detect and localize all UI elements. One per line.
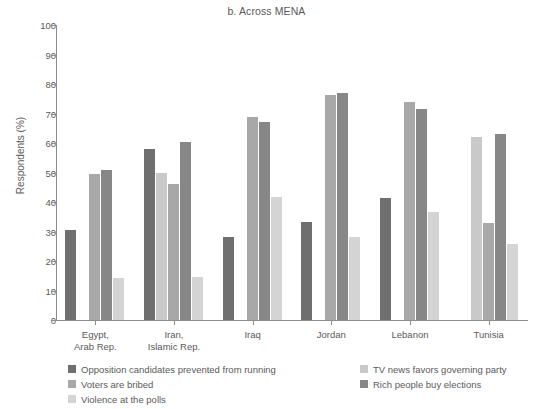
plot-area (56, 25, 528, 320)
bar (113, 278, 124, 320)
bar (101, 170, 112, 320)
y-tick-label: 40 (12, 197, 56, 208)
legend-item[interactable]: TV news favors governing party (360, 362, 533, 376)
bar (416, 109, 427, 320)
bar-group-bars (380, 25, 440, 320)
bar (180, 142, 191, 320)
y-tick-label: 0 (12, 315, 56, 326)
bar (337, 93, 348, 320)
y-tick-label: 30 (12, 226, 56, 237)
chart-legend: Opposition candidates prevented from run… (60, 362, 520, 407)
legend-swatch-icon (360, 365, 368, 373)
bar (380, 198, 391, 320)
legend-item[interactable]: Voters are bribed (68, 377, 308, 391)
legend-label: Voters are bribed (81, 379, 153, 390)
y-tick-label: 80 (12, 79, 56, 90)
y-tick-label: 10 (12, 285, 56, 296)
y-tick-label: 50 (12, 167, 56, 178)
bar (259, 122, 270, 320)
legend-item[interactable]: Rich people buy elections (360, 377, 533, 391)
legend-item[interactable]: Violence at the polls (68, 392, 308, 406)
x-tick-label-line: Tunisia (434, 329, 533, 341)
x-tick-mark (489, 320, 490, 325)
bar-group-bars (65, 25, 125, 320)
bar-group (449, 25, 528, 320)
x-tick-mark (331, 320, 332, 325)
legend-item[interactable]: Opposition candidates prevented from run… (68, 362, 308, 376)
legend-label: Opposition candidates prevented from run… (81, 364, 276, 375)
bar (404, 102, 415, 320)
bar (247, 117, 258, 320)
bar (483, 223, 494, 320)
x-tick-mark (410, 320, 411, 325)
y-tick-label: 20 (12, 256, 56, 267)
bar (301, 222, 312, 320)
bar (507, 244, 518, 320)
bar (65, 230, 76, 320)
bar-group (292, 25, 371, 320)
legend-swatch-icon (360, 380, 368, 388)
bar-group (56, 25, 135, 320)
legend-label: Rich people buy elections (373, 379, 481, 390)
legend-label: TV news favors governing party (373, 364, 507, 375)
bar (223, 237, 234, 320)
y-tick-label: 100 (12, 20, 56, 31)
bar (271, 197, 282, 320)
bar (89, 174, 100, 320)
bar (168, 184, 179, 320)
bar (428, 212, 439, 320)
bar-group-bars (459, 25, 519, 320)
y-tick-label: 90 (12, 49, 56, 60)
bar-group-bars (301, 25, 361, 320)
legend-swatch-icon (68, 380, 76, 388)
chart-figure: b. Across MENA Respondents (%) 100908070… (0, 0, 533, 409)
bar (325, 95, 336, 320)
x-axis-line (56, 320, 528, 321)
bar-group-bars (223, 25, 283, 320)
x-tick-label: Tunisia (434, 329, 533, 341)
bar (349, 237, 360, 320)
bar-group (135, 25, 214, 320)
bar (144, 149, 155, 320)
bar (192, 277, 203, 320)
bar-group-bars (144, 25, 204, 320)
legend-swatch-icon (68, 395, 76, 403)
bar (471, 137, 482, 320)
bar (495, 134, 506, 320)
legend-swatch-icon (68, 365, 76, 373)
x-tick-mark (253, 320, 254, 325)
legend-label: Violence at the polls (81, 394, 166, 405)
legend-column-left: Opposition candidates prevented from run… (68, 362, 308, 407)
bar-group (371, 25, 450, 320)
chart-title: b. Across MENA (0, 5, 533, 17)
bar-group (213, 25, 292, 320)
legend-column-right: TV news favors governing partyRich peopl… (360, 362, 533, 392)
x-tick-mark (174, 320, 175, 325)
y-tick-label: 70 (12, 108, 56, 119)
bar (156, 173, 167, 320)
y-tick-label: 60 (12, 138, 56, 149)
x-tick-label-line: Islamic Rep. (119, 341, 229, 353)
x-tick-mark (95, 320, 96, 325)
